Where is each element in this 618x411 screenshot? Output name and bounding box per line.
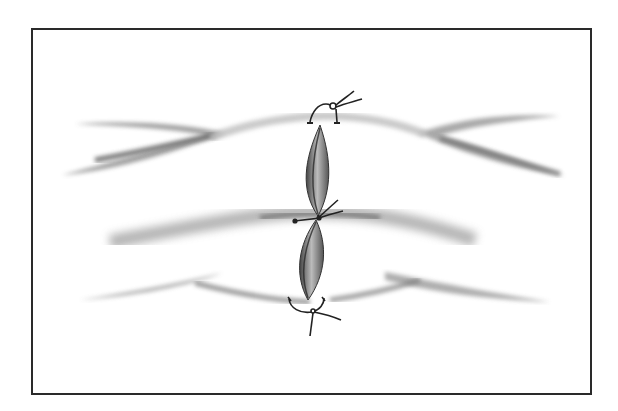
upper-left-strand: [62, 123, 225, 175]
lower-right-strand: [330, 272, 550, 302]
middle-band: [110, 212, 475, 242]
suture-illustration: [0, 0, 618, 411]
upper-right-strand: [418, 115, 565, 176]
lower-left-strand: [80, 273, 310, 302]
